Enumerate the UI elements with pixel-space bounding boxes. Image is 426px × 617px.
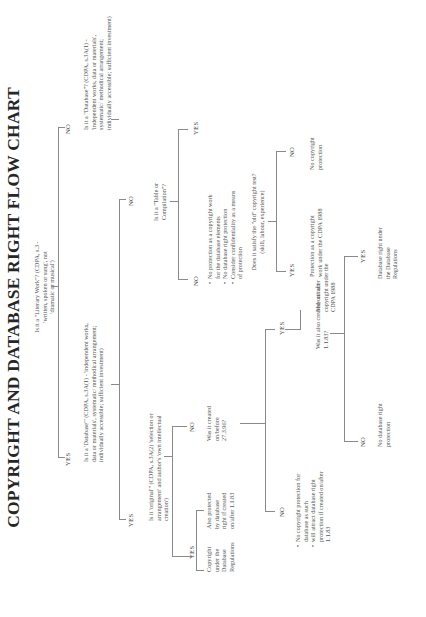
label-yes: YES — [359, 250, 366, 263]
connector — [119, 519, 126, 520]
connector — [51, 286, 58, 287]
connector — [268, 221, 276, 222]
node-no-copyright-for-database: No copyright protection for database as … — [294, 457, 332, 547]
label-no: NO — [64, 124, 71, 134]
node-copyright-under-regs: Copyright under the Database Regulations — [205, 534, 235, 572]
label-yes: YES — [278, 322, 285, 335]
branch-old-test — [276, 152, 277, 272]
branch-original — [172, 427, 173, 557]
connector — [344, 256, 358, 257]
bullet-item: Consider confidentiality as a means of p… — [229, 189, 244, 279]
branch-created-before — [265, 330, 266, 512]
branch-table — [178, 130, 179, 280]
node-literary-work-question: Is it a "Literary Work"? (CDPA, s.3 - 'w… — [33, 241, 56, 333]
connector — [344, 441, 358, 442]
node-no-db-right-protection: No database right protection — [376, 392, 391, 447]
connector — [119, 199, 126, 200]
branch-also-created — [344, 257, 345, 442]
branch-original-yes — [196, 511, 197, 571]
bullet-item: No protection as a copyright work for th… — [206, 189, 221, 279]
connector — [164, 456, 172, 457]
label-yes: YES — [64, 453, 71, 466]
bullet-item: No database right protection — [221, 189, 229, 279]
label-no: NO — [278, 507, 285, 517]
node-table-no-protection: No protection as a copyright work for th… — [206, 189, 244, 284]
connector — [111, 119, 119, 120]
connector — [111, 384, 119, 385]
node-protection-as-copyright: Protection as a copyright work under the… — [308, 207, 323, 277]
label-no: NO — [192, 276, 199, 286]
connector — [178, 129, 188, 130]
node-also-protected: Also protected by database right if crea… — [205, 487, 235, 529]
bullet-item: No copyright protection for database as … — [294, 457, 309, 542]
label-yes: YES — [127, 514, 134, 527]
connector — [276, 271, 286, 272]
connector — [196, 570, 204, 571]
label-yes: YES — [188, 546, 195, 559]
connector — [265, 329, 275, 330]
node-database-question-literary-yes: Is it a 'Database'" (CDPA, s.3A(1) - 'in… — [82, 312, 105, 462]
node-database-question-literary-no: Is it a "Database"? (CDPA, s.3A(1) - 'in… — [82, 10, 112, 130]
node-no-copyright-protection: No copyright protection — [308, 122, 323, 170]
connector — [170, 201, 178, 202]
page-title: COPYRIGHT AND DATABASE RIGHT FLOW CHART — [3, 55, 24, 560]
node-db-right-under-regs: Database right under the Database Regula… — [376, 219, 399, 279]
node-created-before-27396: Was it created on/before 27.3.96? — [205, 401, 228, 441]
label-no: NO — [127, 196, 134, 206]
connector — [330, 333, 344, 334]
connector — [300, 310, 301, 330]
node-original-question: Is it 'original'" (CDPA, s.3A(2) 'select… — [147, 396, 170, 521]
label-no: NO — [288, 147, 295, 157]
label-yes: YES — [288, 264, 295, 277]
flowchart-page: COPYRIGHT AND DATABASE RIGHT FLOW CHART … — [0, 0, 426, 617]
connector — [285, 329, 300, 330]
connector — [240, 423, 265, 424]
branch-literary — [58, 128, 59, 458]
label-yes: YES — [192, 122, 199, 135]
connector — [276, 151, 286, 152]
connector — [265, 511, 275, 512]
connector — [172, 426, 187, 427]
connector — [178, 279, 188, 280]
bullet-item: will attract database right protection i… — [309, 457, 332, 542]
node-table-compilation-question: Is it a "Table or Compilation"? — [152, 172, 167, 232]
node-old-copyright-test: Does it satisfy the "old" copyright test… — [250, 167, 265, 277]
connector — [196, 510, 204, 511]
branch-database-literary — [119, 200, 120, 520]
label-no: NO — [188, 422, 195, 432]
label-no: NO — [359, 437, 366, 447]
